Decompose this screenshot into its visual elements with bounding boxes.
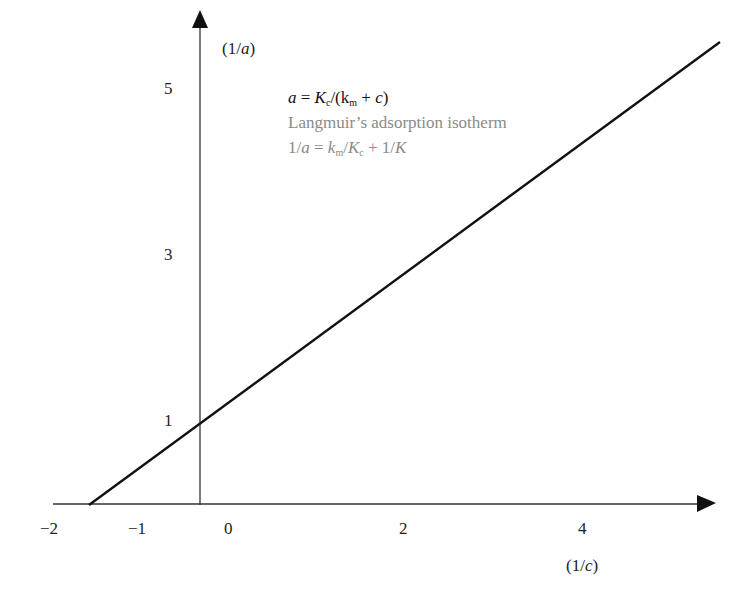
x-axis-arrow-icon xyxy=(697,495,716,512)
x-tick-label: −1 xyxy=(128,520,146,537)
y-axis-label: (1/a) xyxy=(222,40,255,57)
eq1-ksub: m xyxy=(349,97,357,108)
eq1-c: c xyxy=(375,88,383,107)
eq1-tail: + xyxy=(357,88,375,107)
eq1-close: ) xyxy=(383,88,389,107)
eq2-K2: K xyxy=(395,138,406,157)
y-tick-label: 5 xyxy=(164,80,173,97)
eq1-mid: /(k xyxy=(330,88,349,107)
eq2-ksub: m xyxy=(335,147,343,158)
data-line xyxy=(89,42,720,505)
y-tick-label: 1 xyxy=(164,412,173,429)
annotation-equation-langmuir: a = Kc/(km + c) xyxy=(288,89,388,108)
y-axis-label-open: (1/ xyxy=(222,39,241,58)
x-axis-label: (1/c) xyxy=(566,557,598,574)
y-axis-arrow-icon xyxy=(192,10,208,28)
eq1-eq: = xyxy=(297,88,315,107)
eq1-a: a xyxy=(288,88,297,107)
eq2-K: K xyxy=(348,138,359,157)
eq2-eq: = xyxy=(310,138,328,157)
y-tick-label: 3 xyxy=(164,246,173,263)
annotation-equation-linearized: 1/a = km/Kc + 1/K xyxy=(288,139,406,158)
eq2-pre: 1/ xyxy=(288,138,301,157)
x-tick-label: 2 xyxy=(399,520,408,537)
annotation-caption: Langmuir’s adsorption isotherm xyxy=(288,114,507,131)
x-tick-label: −2 xyxy=(40,520,58,537)
y-axis-label-close: ) xyxy=(249,39,255,58)
eq2-tail: + 1/ xyxy=(364,138,395,157)
x-axis-label-open: (1/ xyxy=(566,556,585,575)
eq2-a: a xyxy=(301,138,310,157)
x-axis-label-close: ) xyxy=(592,556,598,575)
x-tick-label: 4 xyxy=(578,520,587,537)
x-tick-label: 0 xyxy=(224,520,233,537)
eq1-K: K xyxy=(315,88,326,107)
